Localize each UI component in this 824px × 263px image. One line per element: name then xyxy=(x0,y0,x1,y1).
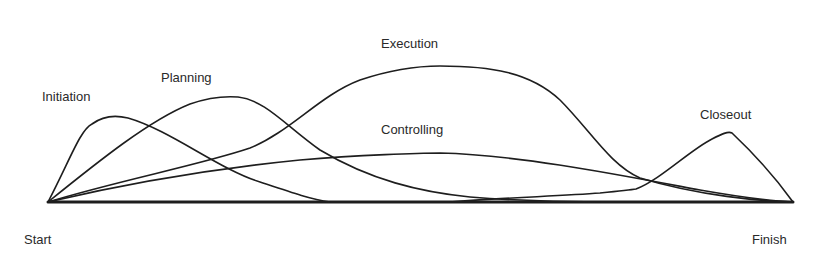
label-execution: Execution xyxy=(381,36,438,51)
label-initiation: Initiation xyxy=(42,89,90,104)
label-finish: Finish xyxy=(752,232,787,247)
initiation-curve xyxy=(48,116,330,202)
process-groups-diagram: Initiation Planning Execution Controllin… xyxy=(0,0,824,263)
label-controlling: Controlling xyxy=(381,122,443,137)
planning-curve xyxy=(48,97,600,202)
label-start: Start xyxy=(24,232,51,247)
label-closeout: Closeout xyxy=(700,107,751,122)
label-planning: Planning xyxy=(161,70,212,85)
